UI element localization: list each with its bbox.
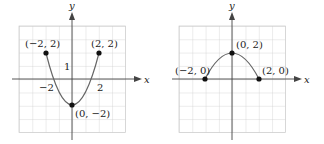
right-y-arrow-icon — [229, 12, 235, 20]
left-label-2-2: (2, 2) — [91, 38, 118, 49]
left-point-neg2-2 — [43, 50, 48, 55]
figure: y x −2 2 1 (−2, 2) (2, 2) (0, −2) y x (−… — [0, 0, 324, 144]
left-tick-2: 2 — [97, 82, 103, 93]
right-point-2-0 — [256, 76, 261, 81]
left-tick-y1: 1 — [64, 61, 70, 72]
left-x-label: x — [144, 74, 150, 85]
right-label-2-0: (2, 0) — [262, 65, 289, 76]
left-y-label: y — [68, 0, 75, 11]
right-label-neg2-0: (−2, 0) — [175, 65, 210, 76]
right-graph: y x (−2, 0) (0, 2) (2, 0) — [172, 0, 310, 140]
left-y-arrow-icon — [69, 12, 75, 20]
left-point-0-neg2 — [69, 102, 74, 107]
left-graph: y x −2 2 1 (−2, 2) (2, 2) (0, −2) — [12, 0, 150, 140]
left-tick-neg2: −2 — [39, 82, 54, 93]
right-point-neg2-0 — [202, 76, 207, 81]
right-label-0-2: (0, 2) — [236, 39, 263, 50]
right-x-arrow-icon — [294, 76, 302, 82]
left-point-2-2 — [96, 50, 101, 55]
left-x-arrow-icon — [134, 76, 142, 82]
left-label-0-neg2: (0, −2) — [75, 108, 110, 119]
right-y-label: y — [228, 0, 235, 11]
right-x-label: x — [304, 74, 310, 85]
left-label-neg2-2: (−2, 2) — [25, 38, 60, 49]
right-point-0-2 — [229, 50, 234, 55]
